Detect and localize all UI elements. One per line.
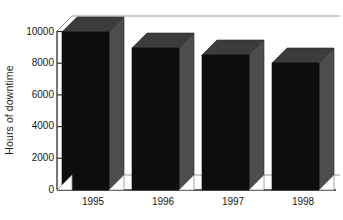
x-tick-label: 1998 — [292, 196, 314, 207]
x-tick-label: 1995 — [82, 196, 104, 207]
x-axis-tick-labels: 1995 1996 1997 1998 — [0, 0, 343, 220]
x-tick-label: 1996 — [152, 196, 174, 207]
bar-chart: Hours of downtime 10000 8000 6000 4000 2… — [0, 0, 343, 220]
x-tick-label: 1997 — [222, 196, 244, 207]
